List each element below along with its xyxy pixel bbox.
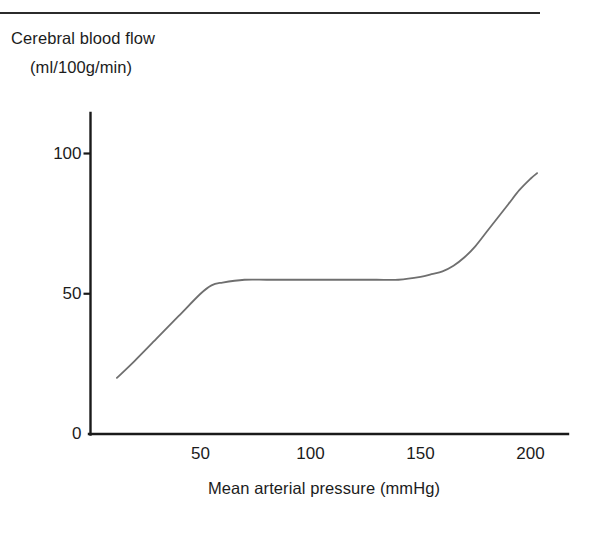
x-tick-label-100: 100 (296, 444, 324, 464)
y-tick-label-50: 50 (20, 284, 82, 304)
figure-container: Cerebral blood flow (ml/100g/min) 100500… (0, 0, 596, 536)
y-tick-label-100: 100 (20, 144, 82, 164)
y-tick-label-0: 0 (20, 424, 82, 444)
x-axis-title: Mean arterial pressure (mmHg) (0, 479, 596, 498)
page-bottom-text-sliver (0, 531, 596, 536)
x-tick-label-50: 50 (191, 444, 210, 464)
x-tick-label-150: 150 (406, 444, 434, 464)
cerebral-blood-flow-curve (117, 173, 537, 378)
x-tick-label-200: 200 (516, 444, 544, 464)
